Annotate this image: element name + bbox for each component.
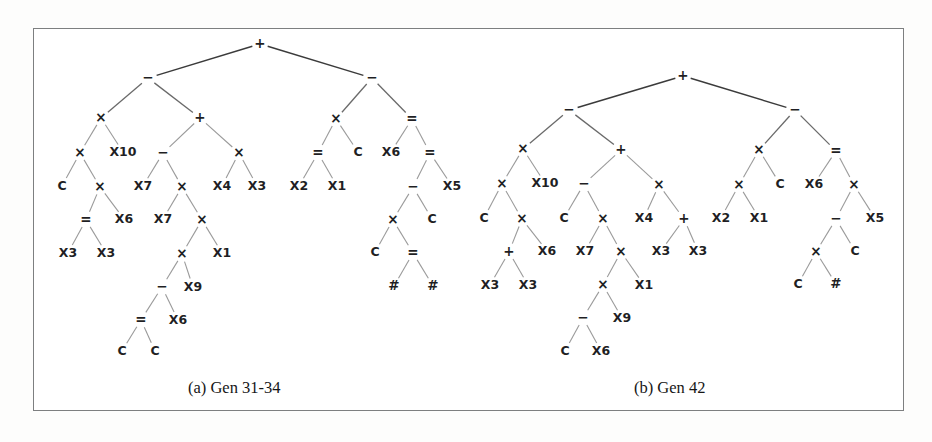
caption-tree-a: (a) Gen 31-34 (188, 378, 281, 398)
figure-root: +−−×+×=×X10−×=CX6=C×X7×X4X3X2X1−X5=X6X7×… (0, 0, 932, 442)
caption-tree-b: (b) Gen 42 (634, 378, 705, 398)
figure-frame (33, 28, 904, 411)
